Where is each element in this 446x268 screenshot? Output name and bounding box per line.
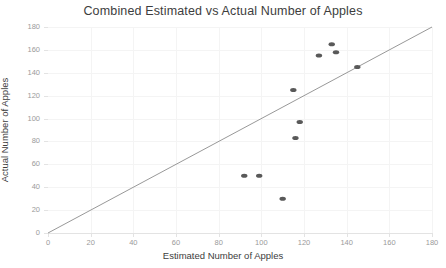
x-tick-label: 180 (417, 239, 446, 247)
y-tick-label: 120 (0, 92, 40, 100)
plot-area (48, 27, 432, 233)
y-tick-label: 80 (0, 137, 40, 145)
data-point (279, 197, 285, 201)
x-tick-label: 40 (118, 239, 148, 247)
x-tick-label: 100 (246, 239, 276, 247)
x-tick-label: 60 (161, 239, 191, 247)
gridline-vertical (432, 27, 433, 233)
y-tick-label: 100 (0, 115, 40, 123)
x-tick-mark (219, 233, 220, 237)
x-tick-label: 0 (33, 239, 63, 247)
y-tick-label: 140 (0, 69, 40, 77)
data-point (297, 120, 303, 124)
x-tick-mark (347, 233, 348, 237)
data-point (241, 174, 247, 178)
data-point (292, 136, 298, 140)
y-tick-label: 60 (0, 160, 40, 168)
x-tick-mark (261, 233, 262, 237)
x-tick-label: 120 (289, 239, 319, 247)
x-tick-mark (133, 233, 134, 237)
x-tick-mark (48, 233, 49, 237)
data-point (354, 65, 360, 69)
x-tick-label: 160 (374, 239, 404, 247)
x-tick-mark (304, 233, 305, 237)
y-tick-label: 180 (0, 23, 40, 31)
x-tick-label: 80 (204, 239, 234, 247)
x-tick-mark (91, 233, 92, 237)
y-tick-label: 40 (0, 183, 40, 191)
y-tick-label: 0 (0, 229, 40, 237)
chart-figure: Combined Estimated vs Actual Number of A… (0, 0, 446, 268)
data-point (290, 88, 296, 92)
data-point (329, 42, 335, 46)
x-tick-mark (176, 233, 177, 237)
data-point (256, 174, 262, 178)
data-points-layer (48, 27, 432, 233)
y-axis-label-container: Actual Number of Apples (0, 60, 14, 200)
x-tick-label: 140 (332, 239, 362, 247)
x-axis-label: Estimated Number of Apples (0, 250, 446, 261)
chart-title: Combined Estimated vs Actual Number of A… (0, 4, 446, 18)
x-tick-mark (389, 233, 390, 237)
y-tick-label: 20 (0, 206, 40, 214)
data-point (333, 50, 339, 54)
data-point (316, 54, 322, 58)
y-tick-label: 160 (0, 46, 40, 54)
x-tick-mark (432, 233, 433, 237)
x-axis-line (48, 233, 433, 234)
x-tick-label: 20 (76, 239, 106, 247)
